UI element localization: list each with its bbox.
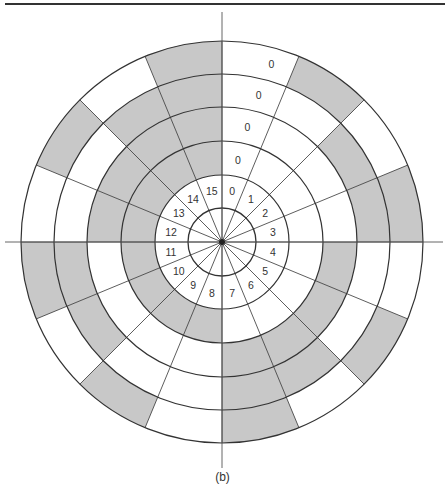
sector-label: 6 bbox=[248, 279, 254, 291]
sector-label: 10 bbox=[173, 265, 185, 277]
sector-label: 2 bbox=[262, 207, 268, 219]
sector-line bbox=[222, 56, 299, 242]
sector-label: 1 bbox=[248, 193, 254, 205]
track-zero-label: 0 bbox=[256, 89, 262, 101]
center-hub bbox=[219, 239, 225, 245]
track-zero-label: 0 bbox=[245, 121, 251, 133]
figure-caption: (b) bbox=[0, 470, 445, 484]
sector-label: 11 bbox=[166, 246, 177, 258]
track-zero-labels: 0000 bbox=[235, 58, 274, 165]
sector-label: 7 bbox=[229, 287, 235, 299]
sector-label: 3 bbox=[270, 226, 276, 238]
sector-label: 8 bbox=[209, 287, 215, 299]
sector-label: 15 bbox=[206, 185, 218, 197]
sector-label: 13 bbox=[173, 207, 185, 219]
sector-label: 9 bbox=[190, 279, 196, 291]
sector-label: 0 bbox=[229, 185, 235, 197]
sector-label: 14 bbox=[187, 193, 199, 205]
sector-label: 4 bbox=[270, 246, 276, 258]
track-zero-label: 0 bbox=[235, 154, 241, 166]
sector-label: 5 bbox=[262, 265, 268, 277]
sector-label: 12 bbox=[165, 226, 177, 238]
track-zero-label: 0 bbox=[268, 58, 274, 70]
encoder-disk: 0123456789101112131415 0000 bbox=[0, 0, 445, 487]
